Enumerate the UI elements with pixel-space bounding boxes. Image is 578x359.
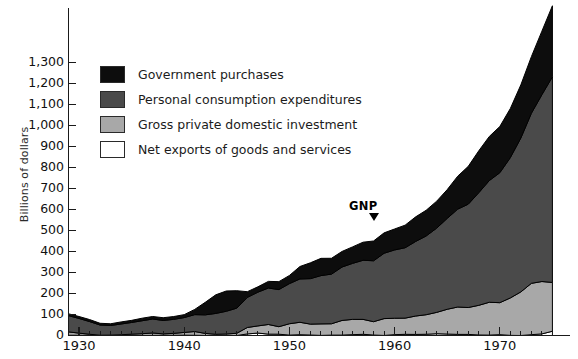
legend-item: Gross private domestic investment xyxy=(100,112,362,137)
legend-item: Government purchases xyxy=(100,62,362,87)
legend-swatch xyxy=(100,116,125,133)
chart-legend: Government purchasesPersonal consumption… xyxy=(100,62,362,162)
legend-label: Gross private domestic investment xyxy=(138,117,357,132)
legend-swatch xyxy=(100,66,125,83)
stacked-area-series xyxy=(69,6,553,336)
gnp-annotation-label: GNP xyxy=(349,199,377,213)
legend-item: Personal consumption expenditures xyxy=(100,87,362,112)
legend-label: Government purchases xyxy=(138,67,284,82)
legend-swatch xyxy=(100,91,125,108)
legend-label: Net exports of goods and services xyxy=(138,142,351,157)
legend-label: Personal consumption expenditures xyxy=(138,92,362,107)
legend-item: Net exports of goods and services xyxy=(100,137,362,162)
gnp-arrow-head xyxy=(369,213,379,221)
chart-root: Billions of dollars 01002003004005006007… xyxy=(0,0,578,359)
chart-plot-area xyxy=(0,0,578,359)
legend-swatch xyxy=(100,141,125,158)
gnp-arrow-icon xyxy=(369,213,379,221)
